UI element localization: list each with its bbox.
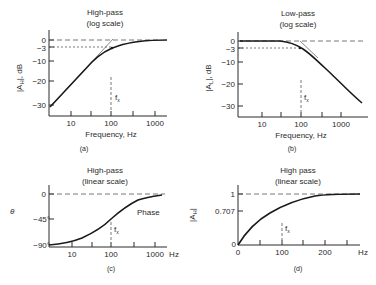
svg-text:1000: 1000 [146,250,164,259]
panel-c-caption: (c) [107,265,115,273]
panel-b-y-tick-labels: 0 −3 −10 −20 −30 [221,37,235,111]
panel-c-cutoff-label: fx [114,225,119,235]
svg-text:1000: 1000 [146,119,164,128]
panel-a-3db-point [111,47,113,49]
svg-text:1000: 1000 [332,120,350,129]
figure: High-pass (log scale) 0 −3 −10 −20 −30 1… [0,0,376,285]
svg-text:100: 100 [275,248,289,257]
svg-text:0: 0 [236,248,241,257]
svg-text:10: 10 [67,119,76,128]
panel-b-y-ticks [238,41,243,106]
panel-a-y-tick-labels: 0 −3 −10 −20 −30 [32,36,46,110]
svg-text:−45°: −45° [33,215,50,224]
svg-text:−20: −20 [221,80,235,89]
panel-c-phase-annotation: Phase [137,208,160,217]
svg-text:100: 100 [104,250,118,259]
panel-c-x-tick-labels: 10 100 1000 [68,250,165,259]
panel-a-x-ticks [71,111,155,116]
panel-a-title: High-pass [87,8,123,17]
panel-d-response-curve [238,194,360,245]
panel-b-cutoff-label: fx [304,93,309,103]
panel-b-y-label: |AL|, dB [204,64,214,91]
svg-text:10: 10 [68,250,77,259]
svg-text:−10: −10 [32,57,46,66]
panel-d-subtitle: (linear scale) [275,177,321,186]
panel-a-y-ticks [49,40,54,105]
svg-text:−20: −20 [32,77,46,86]
svg-text:10: 10 [258,120,267,129]
panel-a-response-curve [50,40,167,107]
panel-a-cutoff-label: fx [115,93,120,103]
panel-c-y-tick-labels: 0 −45° −90° [33,190,50,250]
panel-d-x-tick-labels: 0 100 200 [236,248,332,257]
panel-a-x-label: Frequency, Hz [85,130,136,139]
svg-text:100: 100 [104,119,118,128]
svg-text:−3: −3 [226,45,236,54]
svg-text:−90°: −90° [33,241,50,250]
svg-text:200: 200 [318,248,332,257]
panel-c-phase-curve [49,195,162,245]
svg-text:0.707: 0.707 [215,207,236,216]
panel-c-y-label: θ [10,207,15,216]
panel-a-subtitle: (log scale) [87,19,124,28]
panel-d-y-tick-labels: 1 0.707 0 [215,190,237,249]
svg-text:0: 0 [42,190,47,199]
panel-c-x-ticks [72,242,155,247]
panel-b-response-curve [240,41,362,103]
panel-d-caption: (d) [294,265,303,273]
panel-b: Low-pass (log scale) 0 −3 −10 −20 −30 10… [204,9,368,153]
panel-b-title: Low-pass [281,9,315,18]
panel-c-subtitle: (linear scale) [82,177,128,186]
panel-c-x-unit: Hz [169,250,179,259]
panel-b-x-label: Frequency, Hz [275,131,326,140]
svg-text:−30: −30 [221,102,235,111]
panel-a-caption: (a) [80,145,89,153]
svg-text:−30: −30 [32,101,46,110]
panel-d-y-ticks [238,194,243,211]
panel-a-x-tick-labels: 10 100 1000 [67,119,165,128]
panel-c-title: High-pass [87,166,123,175]
panel-b-x-ticks [262,112,341,117]
panel-d-title: High pass [280,166,316,175]
panel-b-x-tick-labels: 10 100 1000 [258,120,351,129]
panel-c: High-pass (linear scale) 0 −45° −90° θ 1… [10,166,179,273]
panel-b-subtitle: (log scale) [280,20,317,29]
svg-text:−10: −10 [221,58,235,67]
panel-d-x-ticks [260,240,347,245]
panel-d-x-unit: Hz [358,248,368,257]
panel-b-caption: (b) [288,145,297,153]
panel-d-y-label: |AH| [188,208,198,222]
panel-d: High pass (linear scale) 1 0.707 0 |AH| … [188,166,368,273]
svg-text:100: 100 [294,120,308,129]
panel-d-cutoff-label: fx [285,224,290,234]
svg-text:−3: −3 [37,44,47,53]
svg-text:1: 1 [231,190,236,199]
panel-a-y-label: |AH|, dB [15,64,25,92]
panel-b-3db-point [299,47,301,49]
panel-a: High-pass (log scale) 0 −3 −10 −20 −30 1… [15,8,167,153]
